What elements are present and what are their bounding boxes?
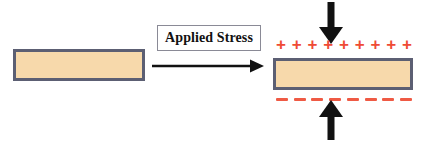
applied-stress-right-arrow-icon — [152, 56, 264, 76]
charge-plus-icon: + — [308, 36, 318, 53]
charge-minus-icon — [347, 98, 359, 101]
charge-minus-icon — [400, 98, 412, 101]
charge-minus-icon — [382, 98, 394, 101]
charge-plus-icon: + — [371, 36, 381, 53]
charge-plus-icon: + — [386, 36, 396, 53]
applied-stress-label-text: Applied Stress — [165, 30, 253, 46]
applied-stress-label-box: Applied Stress — [157, 25, 261, 51]
charge-minus-icon — [276, 98, 288, 101]
charge-plus-icon: + — [292, 36, 302, 53]
charge-plus-icon: + — [402, 36, 412, 53]
charge-plus-icon: + — [323, 36, 333, 53]
charge-plus-icon: + — [276, 36, 286, 53]
positive-charge-row: +++++++++ — [274, 36, 414, 52]
negative-charge-row — [274, 94, 414, 104]
stressed-material-block — [273, 58, 413, 90]
charge-plus-icon: + — [355, 36, 365, 53]
unstressed-material-block — [13, 49, 145, 81]
compression-up-arrow-icon — [318, 100, 344, 140]
charge-minus-icon — [365, 98, 377, 101]
diagram-canvas: Applied Stress +++++++++ — [0, 0, 422, 142]
charge-plus-icon: + — [339, 36, 349, 53]
charge-minus-icon — [294, 98, 306, 101]
